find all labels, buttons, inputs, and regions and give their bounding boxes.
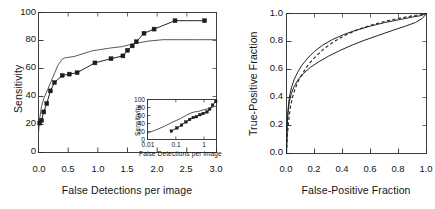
inset-ytick-80: 80 [128, 104, 145, 111]
inset-plot-frame [148, 100, 217, 140]
right-series-lower-solid [287, 14, 427, 154]
inset-x-axis-title: False Detections per image [139, 150, 219, 157]
inset-ytick-20: 20 [128, 128, 145, 135]
right-right-ticks [423, 42, 427, 126]
inset-ytick-40: 40 [128, 120, 145, 127]
inset-xtick-1: 1 [197, 141, 211, 148]
left-top-ticks [68, 13, 187, 17]
right-series-dashed [287, 14, 427, 154]
right-roc-panel: True-Positive Fraction 1.0 0.8 0.6 0.4 0… [225, 0, 435, 209]
right-plot-svg [225, 0, 435, 209]
inset-xtick-0.01: 0.01 [139, 141, 157, 148]
right-plot-frame [287, 14, 427, 154]
right-x-ticks [287, 149, 427, 154]
right-series-upper-solid [287, 14, 427, 154]
right-top-ticks [315, 14, 399, 18]
left-plot-svg [0, 0, 225, 209]
left-froc-panel: Sensitivity 100 80 60 40 20 0 0.0 0.5 1.… [0, 0, 225, 209]
inset-xtick-0.1: 0.1 [168, 141, 184, 148]
inset-ytick-100: 100 [128, 96, 145, 103]
inset-ytick-60: 60 [128, 112, 145, 119]
left-y-ticks [39, 13, 44, 153]
figure-container: Sensitivity 100 80 60 40 20 0 0.0 0.5 1.… [0, 0, 435, 209]
